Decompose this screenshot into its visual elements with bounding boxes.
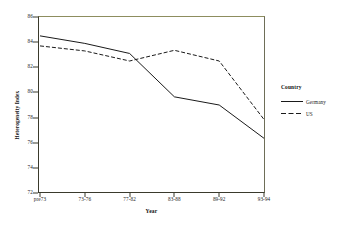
x-tick-mark <box>174 193 175 197</box>
x-tick-label: 89-92 <box>213 197 226 202</box>
legend-title: Country <box>281 84 351 91</box>
x-tick-mark <box>84 193 85 197</box>
legend-label-germany: Germany <box>306 99 326 105</box>
x-tick-mark <box>129 193 130 197</box>
legend: Country Germany US <box>281 84 351 121</box>
legend-line-solid-icon <box>281 98 303 105</box>
x-tick-mark <box>264 193 265 197</box>
x-tick-mark <box>219 193 220 197</box>
legend-item-us[interactable]: US <box>281 109 351 118</box>
legend-label-us: US <box>306 111 313 117</box>
x-tick-label: 73-76 <box>78 197 91 202</box>
legend-item-germany[interactable]: Germany <box>281 97 351 106</box>
legend-line-dashed-icon <box>281 110 303 117</box>
x-tick-label: pre73 <box>34 197 46 202</box>
x-tick-label: 83-88 <box>168 197 181 202</box>
x-tick-label: 93-94 <box>258 197 271 202</box>
x-tick-label: 77-82 <box>123 197 136 202</box>
x-tick-mark <box>40 193 41 197</box>
x-axis-title: Year <box>38 208 265 214</box>
chart-container: Heterogeneity Index 8684828078767472 pre… <box>0 0 353 229</box>
